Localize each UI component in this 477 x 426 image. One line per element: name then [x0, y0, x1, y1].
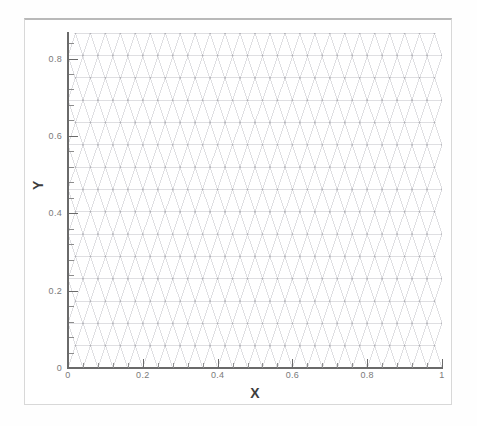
- y-axis-minor-tick: [69, 353, 74, 354]
- x-axis-major-tick: [442, 359, 443, 368]
- y-axis-minor-tick: [69, 105, 74, 106]
- x-axis-minor-tick: [188, 363, 189, 368]
- x-axis-tick-label: 1: [439, 370, 444, 380]
- x-axis-minor-tick: [158, 363, 159, 368]
- x-axis-minor-tick: [262, 363, 263, 368]
- y-axis-major-tick: [69, 59, 78, 60]
- x-axis-tick-label: 0.4: [211, 370, 224, 380]
- y-axis-minor-tick: [69, 120, 74, 121]
- y-axis-tick-label: 0.8: [49, 54, 62, 64]
- x-axis-major-tick: [367, 359, 368, 368]
- y-axis-tick-label: 0.6: [49, 131, 62, 141]
- x-axis-tick-label: 0.8: [360, 370, 373, 380]
- x-axis-major-tick: [68, 359, 69, 368]
- x-axis-minor-tick: [98, 363, 99, 368]
- x-axis-minor-tick: [128, 363, 129, 368]
- y-axis-spine: [67, 32, 69, 369]
- x-axis-minor-tick: [427, 363, 428, 368]
- y-axis-minor-tick: [69, 43, 74, 44]
- x-axis-minor-tick: [173, 363, 174, 368]
- y-axis-minor-tick: [69, 198, 74, 199]
- y-axis-tick-label: 0.2: [49, 286, 62, 296]
- y-axis-minor-tick: [69, 337, 74, 338]
- y-axis-minor-tick: [69, 89, 74, 90]
- triangular-mesh: [68, 33, 442, 368]
- y-axis-minor-tick: [69, 275, 74, 276]
- y-axis-tick-label: 0: [57, 363, 62, 373]
- x-axis-spine: [67, 367, 443, 369]
- x-axis-minor-tick: [322, 363, 323, 368]
- x-axis-minor-tick: [248, 363, 249, 368]
- plot-area: [68, 33, 442, 368]
- x-axis-tick-label: 0: [65, 370, 70, 380]
- x-axis-major-tick: [143, 359, 144, 368]
- x-axis-title: X: [68, 385, 442, 401]
- x-axis-minor-tick: [412, 363, 413, 368]
- x-axis-minor-tick: [337, 363, 338, 368]
- x-axis-minor-tick: [277, 363, 278, 368]
- x-axis-tick-label: 0.6: [286, 370, 299, 380]
- x-axis-minor-tick: [113, 363, 114, 368]
- y-axis-major-tick: [69, 368, 78, 369]
- x-axis-minor-tick: [203, 363, 204, 368]
- x-axis-major-tick: [292, 359, 293, 368]
- y-axis-minor-tick: [69, 244, 74, 245]
- y-axis-major-tick: [69, 213, 78, 214]
- x-axis-minor-tick: [352, 363, 353, 368]
- y-axis-minor-tick: [69, 151, 74, 152]
- y-axis-minor-tick: [69, 229, 74, 230]
- y-axis-minor-tick: [69, 74, 74, 75]
- y-axis-major-tick: [69, 136, 78, 137]
- x-axis-tick-label: 0.2: [136, 370, 149, 380]
- mesh-edge-group: [68, 33, 442, 368]
- x-axis-minor-tick: [397, 363, 398, 368]
- x-axis-minor-tick: [382, 363, 383, 368]
- y-axis-minor-tick: [69, 167, 74, 168]
- x-axis-major-tick: [218, 359, 219, 368]
- x-axis-minor-tick: [233, 363, 234, 368]
- y-axis-minor-tick: [69, 322, 74, 323]
- y-axis-major-tick: [69, 291, 78, 292]
- y-axis-minor-tick: [69, 306, 74, 307]
- x-axis-minor-tick: [83, 363, 84, 368]
- y-axis-minor-tick: [69, 182, 74, 183]
- x-axis-minor-tick: [307, 363, 308, 368]
- figure-page: 00.20.40.60.81 00.20.40.60.8 X Y: [0, 0, 477, 426]
- y-axis-title: Y: [30, 181, 46, 190]
- y-axis-tick-label: 0.4: [49, 208, 62, 218]
- y-axis-minor-tick: [69, 260, 74, 261]
